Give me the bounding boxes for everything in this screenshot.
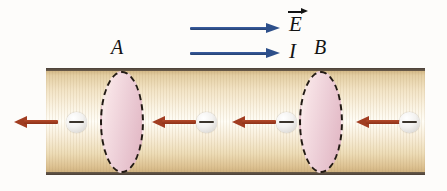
arrow-shaft <box>190 52 268 55</box>
electric-field-arrow <box>190 23 280 33</box>
electron-drift-arrow <box>232 116 276 128</box>
arrow-shaft <box>162 120 196 124</box>
minus-sign-icon <box>279 121 294 123</box>
electron <box>196 112 217 133</box>
label-cross-section-a: A <box>111 37 123 57</box>
electron-drift-arrow <box>152 116 196 128</box>
arrow-head-icon <box>266 48 280 58</box>
label-current: I <box>289 41 296 62</box>
electron <box>276 112 297 133</box>
arrow-shaft <box>190 27 268 30</box>
conductor-top-edge <box>46 68 425 71</box>
current-arrow <box>190 48 280 58</box>
arrow-shaft <box>24 120 58 124</box>
arrow-shaft <box>242 120 276 124</box>
minus-sign-icon <box>199 121 214 123</box>
electron <box>399 112 420 133</box>
physics-figure-conductor-field: E I A B <box>0 0 447 191</box>
label-electric-field: E <box>289 14 302 35</box>
conductor-bottom-edge <box>46 172 425 175</box>
electron-drift-arrow <box>14 116 58 128</box>
vector-arrow-head-icon <box>301 8 308 14</box>
electron-drift-arrow <box>356 116 400 128</box>
label-cross-section-b: B <box>314 37 326 57</box>
minus-sign-icon <box>69 121 84 123</box>
arrow-head-icon <box>266 23 280 33</box>
cross-section-a <box>100 71 144 173</box>
arrow-shaft <box>366 120 400 124</box>
electron <box>66 112 87 133</box>
cross-section-b <box>299 71 343 173</box>
minus-sign-icon <box>402 121 417 123</box>
